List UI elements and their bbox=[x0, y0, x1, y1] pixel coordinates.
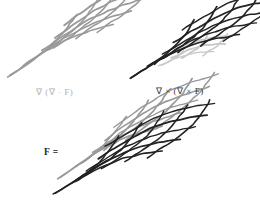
vector-identity-diagram bbox=[0, 0, 260, 204]
label-grad-div: ∇ (∇ · F) bbox=[36, 88, 73, 97]
label-curl-curl: ∇ × (∇ × F) bbox=[156, 87, 204, 96]
label-f-equals: F = bbox=[44, 148, 59, 158]
diagram-background bbox=[0, 0, 260, 204]
